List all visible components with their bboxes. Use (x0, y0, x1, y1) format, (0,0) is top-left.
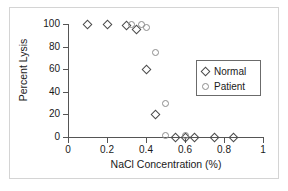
x-axis-tick (263, 138, 264, 143)
y-axis-tick-label: 40 (49, 87, 60, 97)
data-point-patient (182, 132, 189, 139)
y-axis-tick-label: 100 (43, 19, 60, 29)
data-point-patient (128, 21, 135, 28)
y-axis-tick-label: 80 (49, 42, 60, 52)
x-axis-tick (224, 138, 225, 143)
data-point-patient (152, 49, 159, 56)
x-axis-tick-label: 0.4 (139, 144, 153, 155)
data-point-patient (143, 24, 150, 31)
y-axis-tick-label: 20 (49, 109, 60, 119)
diamond-marker-icon (201, 66, 211, 76)
data-point-patient (162, 100, 169, 107)
circle-marker-icon (202, 83, 209, 90)
legend-item-patient: Patient (202, 79, 245, 93)
legend-label-normal: Normal (214, 66, 246, 77)
x-axis-title: NaCl Concentration (%) (68, 158, 264, 170)
y-axis-tick-labels: 020406080100 (24, 0, 60, 191)
x-axis-tick (146, 138, 147, 143)
x-axis-tick-label: 0.8 (217, 144, 231, 155)
x-axis-tick (68, 138, 69, 143)
legend-label-patient: Patient (214, 81, 245, 92)
x-axis-tick-label: 0 (65, 144, 71, 155)
x-axis-tick (107, 138, 108, 143)
x-axis-tick-label: 0.6 (178, 144, 192, 155)
y-axis-tick-label: 60 (49, 64, 60, 74)
x-axis-tick-label: 0.2 (100, 144, 114, 155)
x-axis-tick-label: 1 (260, 144, 266, 155)
chart-legend: Normal Patient (196, 60, 261, 96)
legend-item-normal: Normal (202, 64, 246, 78)
chart-figure: 020406080100 00.20.40.60.81 Percent Lysi… (0, 0, 288, 191)
y-axis-tick-label: 0 (54, 132, 60, 142)
y-axis-title: Percent Lysis (17, 30, 29, 110)
